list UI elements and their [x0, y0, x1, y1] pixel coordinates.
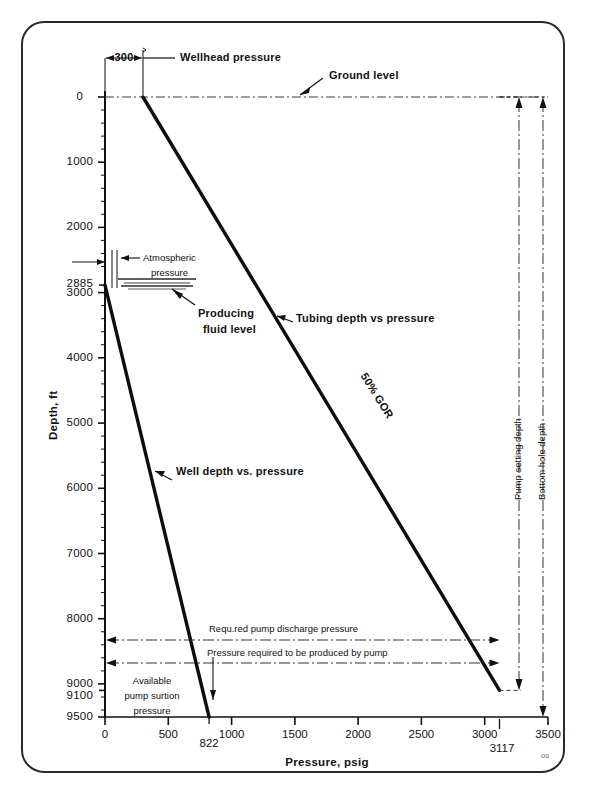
y-tick-label-7000: 7000: [67, 548, 93, 560]
available-pump-suction-label-line2: pump surtion: [125, 691, 180, 701]
x-tick-label-0: 0: [102, 729, 108, 741]
x-tick-label-822: 822: [200, 738, 219, 750]
required-pump-discharge-dimension: [106, 637, 500, 644]
y-tick-label-9000: 9000: [67, 678, 93, 690]
y-tick-label-0: 0: [76, 91, 83, 103]
x-tick-label-2500: 2500: [409, 729, 435, 741]
bottom-hole-depth-label: Bottom hole depth: [537, 423, 547, 500]
x-tick-label-1000: 1000: [219, 729, 245, 741]
x-tick-label-3000: 3000: [472, 729, 498, 741]
y-tick-label-2000: 2000: [67, 221, 93, 233]
x-axis-ticks: [105, 717, 548, 725]
y-tick-label-8000: 8000: [67, 613, 93, 625]
well-depth-series-label: Well depth vs. pressure: [176, 466, 304, 477]
series-well-depth-line: [105, 285, 209, 717]
y-tick-label-9100: 9100: [67, 690, 93, 702]
producing-fluid-level-label-line1: Producing: [198, 308, 254, 319]
x-axis-title: Pressure, psig: [285, 757, 368, 769]
y-tick-label-6000: 6000: [67, 482, 93, 494]
pump-setting-depth-dimension: [500, 97, 523, 690]
atmospheric-pressure-label-line2: pressure: [151, 268, 188, 278]
producing-fluid-level-marker: [118, 279, 196, 289]
pressure-required-by-pump-label: Pressure required to be produced by pump: [207, 648, 388, 658]
x-tick-label-1500: 1500: [282, 729, 308, 741]
pump-setting-depth-label: Pump setting depth: [513, 418, 523, 500]
y-tick-label-9500: 9500: [67, 711, 93, 723]
wellhead-pressure-value: 300: [115, 52, 134, 63]
ground-level-label: Ground level: [329, 70, 399, 81]
atmospheric-pressure-label-line1: Atmospheric: [143, 253, 196, 263]
required-pump-discharge-pressure-label: Requ.red pump discharge pressure: [209, 624, 358, 634]
x-tick-label-500: 500: [159, 729, 178, 741]
series-tubing-depth-line: [143, 97, 500, 690]
tubing-depth-series-label: Tubing depth vs pressure: [296, 313, 434, 324]
y-tick-label-5000: 5000: [67, 417, 93, 429]
wellhead-pressure-label: Wellhead pressure: [180, 52, 281, 63]
y-tick-label-4000: 4000: [67, 352, 93, 364]
corner-mark: ou: [541, 752, 549, 760]
x-tick-label-3500: 3500: [535, 729, 561, 741]
available-pump-suction-label-line1: Available: [133, 676, 171, 686]
x-tick-label-3117: 3117: [490, 743, 515, 755]
available-pump-suction-label-line3: pressure: [134, 706, 171, 716]
figure-container: 0 1000 2000 2885 3000 4000 5000 6000 700…: [0, 0, 599, 800]
producing-fluid-level-arrowhead: [172, 289, 183, 299]
y-axis-title: Depth, ft: [48, 391, 60, 440]
y-tick-label-1000: 1000: [67, 156, 93, 168]
y-axis-ticks: [98, 97, 105, 717]
producing-fluid-level-label-line2: fluid level: [203, 324, 256, 335]
bottom-hole-depth-dimension: [500, 97, 547, 717]
y-tick-label-3000: 3000: [67, 287, 93, 299]
x-tick-label-2000: 2000: [345, 729, 371, 741]
pressure-required-by-pump-dimension: [106, 660, 500, 667]
